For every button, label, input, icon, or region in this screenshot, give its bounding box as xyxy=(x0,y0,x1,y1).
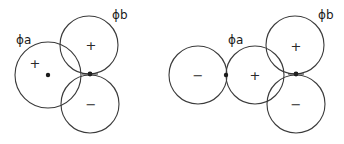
phi-a-nucleus-dot xyxy=(224,73,228,77)
lower-lobe-sign-minus: − xyxy=(86,97,97,112)
phi-a-sign-plus: + xyxy=(250,68,261,83)
phi-b-label: ϕb xyxy=(318,8,334,22)
phi-a-sign-plus: + xyxy=(30,56,41,71)
phi-b-label: ϕb xyxy=(112,8,128,22)
orbital-overlap-diagram: + + − ϕa ϕb − + + − ϕa ϕb xyxy=(0,0,344,144)
phi-a-label: ϕa xyxy=(16,33,31,47)
upper-lobe-sign-plus: + xyxy=(291,39,302,54)
right-panel: − + + − ϕa ϕb xyxy=(169,8,334,133)
left-panel: + + − ϕa ϕb xyxy=(15,8,128,133)
nucleus-dot xyxy=(46,73,50,77)
lower-lobe-sign-minus: − xyxy=(291,97,302,112)
phi-a-label: ϕa xyxy=(228,33,243,47)
upper-lobe-sign-plus: + xyxy=(86,38,97,53)
left-lobe-sign-minus: − xyxy=(193,68,204,83)
